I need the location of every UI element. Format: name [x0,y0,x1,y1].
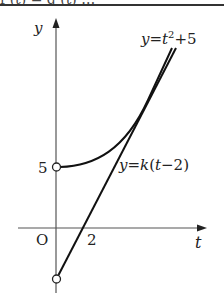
origin-label: O [36,231,48,249]
y-tick-5: 5 [38,159,48,177]
t-axis-arrow-icon [197,225,207,232]
open-point-y-intercept [53,275,61,283]
tangent-label: y=k(t−2) [118,156,189,174]
t-tick-2: 2 [87,231,97,249]
parabola-label: y=t2+5 [140,29,197,48]
graph: y t O 2 5 y=t2+5 y=k(t−2) [0,0,224,304]
t-axis-label: t [195,233,202,252]
open-point-y5 [53,163,61,171]
y-axis-arrow-icon [53,18,60,28]
y-axis-label: y [33,19,43,37]
parabola-curve [60,48,172,167]
y-axis [53,18,60,293]
